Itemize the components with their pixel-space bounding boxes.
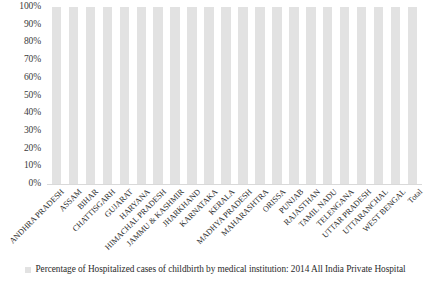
x-axis: ANDHRA PRADESHASSAMBIHARCHATTISGARHGUJAR… [47,186,422,262]
bar[interactable] [306,7,315,184]
bar[interactable] [120,7,129,184]
bar-slot [167,7,184,184]
bar-slot [285,7,302,184]
bar-slot [48,7,65,184]
bar-slot [404,7,421,184]
bar[interactable] [357,7,366,184]
bar-slot [201,7,218,184]
bar-slot [319,7,336,184]
bar[interactable] [86,7,95,184]
legend-label: Percentage of Hospitalized cases of chil… [35,265,405,274]
bar-slot [150,7,167,184]
bar-slot [116,7,133,184]
y-axis: 100%90%80%70%60%50%40%30%20%10%0% [0,0,44,191]
y-axis-tick-label: 20% [24,144,41,154]
bar[interactable] [340,7,349,184]
bar[interactable] [391,7,400,184]
bar-slot [251,7,268,184]
y-axis-tick-label: 60% [24,73,41,83]
x-axis-tick-label: ANDHRA PRADESH [9,188,67,246]
bar[interactable] [103,7,112,184]
bar-slot [336,7,353,184]
bar-slot [65,7,82,184]
y-axis-tick-label: 100% [19,2,41,12]
x-axis-line [47,184,422,185]
bar-slot [218,7,235,184]
bar[interactable] [272,7,281,184]
bar-slot [302,7,319,184]
bar-slot [353,7,370,184]
bar-slot [387,7,404,184]
bar[interactable] [170,7,179,184]
bar[interactable] [238,7,247,184]
bar-chart: 100%90%80%70%60%50%40%30%20%10%0% ANDHRA… [0,0,431,287]
bar[interactable] [374,7,383,184]
bar-slot [370,7,387,184]
bar-slot [82,7,99,184]
chart-legend: Percentage of Hospitalized cases of chil… [0,265,431,274]
y-axis-tick-label: 70% [24,55,41,65]
bar-slot [133,7,150,184]
bar-slot [99,7,116,184]
y-axis-tick-label: 90% [24,20,41,30]
y-axis-tick-label: 80% [24,37,41,47]
y-axis-tick-label: 10% [24,161,41,171]
legend-swatch-icon [25,267,31,273]
bar-slot [184,7,201,184]
bar[interactable] [69,7,78,184]
bar[interactable] [289,7,298,184]
y-axis-tick-label: 0% [29,179,41,189]
bar[interactable] [255,7,264,184]
bar[interactable] [323,7,332,184]
bar[interactable] [153,7,162,184]
y-axis-tick-label: 40% [24,108,41,118]
bar[interactable] [204,7,213,184]
bar[interactable] [221,7,230,184]
bars-container [47,7,422,184]
bar[interactable] [137,7,146,184]
plot-area [47,7,422,184]
bar-slot [234,7,251,184]
bar[interactable] [408,7,417,184]
bar-slot [268,7,285,184]
y-axis-tick-label: 30% [24,126,41,136]
y-axis-tick-label: 50% [24,91,41,101]
bar[interactable] [52,7,61,184]
bar[interactable] [187,7,196,184]
x-axis-tick-label: Total [407,188,424,205]
